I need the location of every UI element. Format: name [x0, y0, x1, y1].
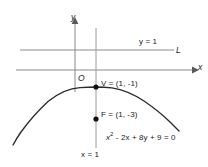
x-axis-label: x [198, 63, 202, 72]
focus-point [93, 116, 98, 121]
conic-equation-remainder: - 2x + 8y + 9 = 0 [114, 133, 176, 142]
y-axis-label: y [71, 13, 75, 22]
focus-label: F = (1, -3) [101, 111, 137, 119]
origin-label: O [78, 74, 85, 83]
parabola-figure: y x O y = 1 L V = (1, -1) F = (1, -3) x … [0, 0, 208, 167]
x-axis [16, 67, 199, 74]
axis-of-symmetry-label: x = 1 [81, 151, 99, 159]
vertex-point [93, 84, 98, 89]
conic-equation-label: x2 - 2x + 8y + 9 = 0 [106, 131, 176, 142]
directrix-name-label: L [176, 46, 181, 55]
directrix-equation-label: y = 1 [139, 38, 157, 46]
vertex-label: V = (1, -1) [101, 80, 138, 88]
